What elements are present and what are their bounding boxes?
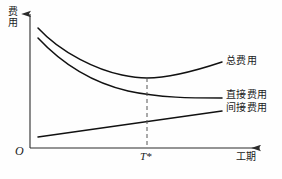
series-line-indirect-cost: [38, 111, 222, 137]
y-axis-title-char-2: 用: [6, 18, 20, 29]
cost-duration-chart: 费 用 工期 O T* 总费用 直接费用 间接费用: [0, 0, 282, 179]
y-axis-title-char-1: 费: [6, 7, 20, 18]
series-curve-direct-cost: [38, 38, 222, 98]
series-label-direct-cost: 直接费用: [226, 90, 267, 101]
origin-label: O: [15, 145, 24, 158]
y-axis-title: 费 用: [6, 7, 20, 28]
x-axis-title: 工期: [236, 152, 257, 163]
optimal-duration-label: T*: [140, 151, 152, 163]
series-label-total-cost: 总费用: [226, 56, 257, 67]
series-label-indirect-cost: 间接费用: [226, 103, 267, 114]
series-curve-total-cost: [38, 28, 222, 78]
